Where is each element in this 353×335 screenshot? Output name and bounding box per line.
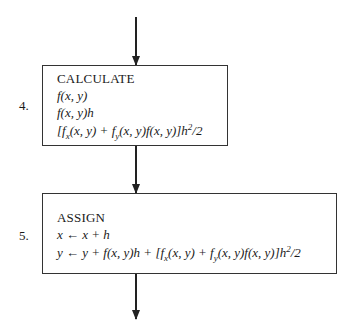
calculate-line-3: [fx(x, y) + fy(x, y)f(x, y)]h2/2 <box>57 122 202 141</box>
arrow-head-icon <box>132 310 140 320</box>
step-number-5: 5. <box>19 228 29 244</box>
step-number-4: 4. <box>19 98 29 114</box>
calculate-line-2: f(x, y)h <box>57 105 94 121</box>
assign-line-1: x ← x + h <box>57 227 110 243</box>
assign-line-2: y ← y + f(x, y)h + [fx(x, y) + fy(x, y)f… <box>57 244 301 263</box>
calculate-line-1: f(x, y) <box>57 88 87 104</box>
assign-title: ASSIGN <box>57 210 105 226</box>
flow-arrow-middle <box>135 146 137 193</box>
calculate-box: CALCULATE f(x, y) f(x, y)h [fx(x, y) + f… <box>42 65 228 146</box>
flow-arrow-out <box>135 274 137 319</box>
assign-box: ASSIGN x ← x + h y ← y + f(x, y)h + [fx(… <box>42 193 337 274</box>
flow-arrow-in <box>135 17 137 65</box>
calculate-title: CALCULATE <box>57 71 135 87</box>
